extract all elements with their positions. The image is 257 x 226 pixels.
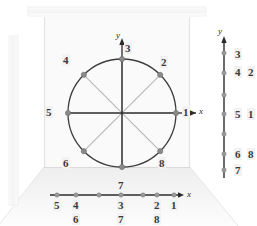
x-projection-label-bottom-6: 6 xyxy=(72,213,80,225)
y-projection-label-left-6: 6 xyxy=(234,148,242,160)
y-projection-label-right-2: 2 xyxy=(247,66,255,78)
x-projection-label-top-2: 2 xyxy=(153,199,161,211)
y-projection-tick xyxy=(222,152,226,156)
y-projection-label-left-7: 7 xyxy=(234,164,242,176)
x-projection-label-bottom-8: 8 xyxy=(153,213,161,225)
y-projection-label-right-1: 1 xyxy=(247,108,255,120)
x-projection-label-bottom-7: 7 xyxy=(117,213,125,225)
circle-point-label-7: 7 xyxy=(117,179,125,191)
x-projection-axis-label: x xyxy=(187,190,191,199)
circle-point-label-5: 5 xyxy=(45,106,53,118)
y-projection-arrowhead xyxy=(221,36,226,43)
y-projection-tick xyxy=(222,71,226,75)
y-projection-label-left-3: 3 xyxy=(234,48,242,60)
circle-point-label-2: 2 xyxy=(160,56,168,68)
circle-y-axis-label: y xyxy=(116,31,120,40)
y-projection-tick xyxy=(222,51,226,55)
x-projection-label-top-1: 1 xyxy=(170,199,178,211)
y-projection-tick xyxy=(222,93,226,97)
circle-point-label-6: 6 xyxy=(62,157,70,169)
x-projection-label-top-3: 3 xyxy=(117,199,125,211)
circle-x-axis-label: x xyxy=(199,107,203,116)
circle-point-label-1: 1 xyxy=(182,106,190,118)
x-projection-label-top-5: 5 xyxy=(53,199,61,211)
y-projection-tick xyxy=(222,132,226,136)
y-projection-label-left-5: 5 xyxy=(234,108,242,120)
figure-stage: y x x y 1 2 3 4 5 6 7 8 5 4 3 2 1 6 7 8 … xyxy=(0,0,257,226)
circle-point-label-3: 3 xyxy=(124,42,132,54)
circle-point-label-4: 4 xyxy=(62,54,70,66)
y-projection-tick xyxy=(222,168,226,172)
y-projection-label-right-8: 8 xyxy=(247,148,255,160)
x-projection-label-top-4: 4 xyxy=(72,199,80,211)
y-projection-axis-label: y xyxy=(218,27,222,36)
circle-point-label-8: 8 xyxy=(158,157,166,169)
y-projection-tick xyxy=(222,112,226,116)
y-projection-label-left-4: 4 xyxy=(234,66,242,78)
